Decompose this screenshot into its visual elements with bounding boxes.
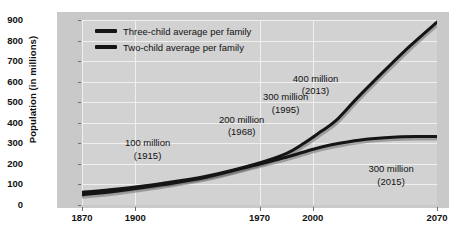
x-tick-label: 2070 (407, 212, 465, 223)
annotation-label: 400 million(2013) (293, 73, 338, 98)
chart-legend: Three-child average per family Two-child… (95, 24, 251, 56)
annotation-year: (2013) (293, 85, 338, 98)
x-tick-mark (135, 207, 136, 211)
legend-label-three-child: Three-child average per family (123, 26, 251, 37)
y-tick-label: 900 (0, 14, 23, 25)
y-tick-mark (78, 82, 81, 83)
population-projection-chart: 0100200300400500600700800900 18701900197… (0, 0, 465, 237)
y-tick-mark (78, 41, 81, 42)
x-tick-mark (260, 207, 261, 211)
annotation-year: (1915) (125, 150, 170, 163)
annotation-year: (1995) (263, 104, 308, 117)
annotation-value: 300 million (368, 163, 413, 176)
legend-swatch-two-child (95, 45, 117, 49)
x-tick-mark (313, 207, 314, 211)
y-tick-mark (78, 102, 81, 103)
y-tick-label: 0 (0, 199, 23, 210)
x-tick-label: 1970 (230, 212, 290, 223)
y-tick-label: 200 (0, 158, 23, 169)
y-tick-mark (78, 143, 81, 144)
y-tick-mark (78, 61, 81, 62)
legend-swatch-three-child (95, 29, 117, 33)
y-tick-mark (78, 20, 81, 21)
x-tick-mark (82, 207, 83, 211)
y-axis-label: Population (in millions) (27, 20, 38, 160)
x-tick-label: 2000 (283, 212, 343, 223)
x-tick-mark (437, 207, 438, 211)
y-tick-label: 100 (0, 178, 23, 189)
annotation-value: 200 million (219, 114, 264, 127)
y-tick-label: 300 (0, 137, 23, 148)
annotation-year: (2015) (368, 176, 413, 189)
y-tick-label: 400 (0, 117, 23, 128)
y-tick-mark (78, 164, 81, 165)
y-tick-mark (78, 184, 81, 185)
annotation-value: 400 million (293, 73, 338, 86)
annotation-label: 100 million(1915) (125, 137, 170, 162)
annotation-label: 200 million(1968) (219, 114, 264, 139)
x-tick-label: 1900 (105, 212, 165, 223)
y-tick-label: 600 (0, 76, 23, 87)
y-tick-label: 800 (0, 35, 23, 46)
annotation-value: 100 million (125, 137, 170, 150)
annotation-label: 300 million(2015) (368, 163, 413, 188)
y-tick-mark (78, 123, 81, 124)
legend-item: Three-child average per family (95, 24, 251, 38)
x-tick-label: 1870 (52, 212, 112, 223)
legend-label-two-child: Two-child average per family (123, 42, 244, 53)
y-tick-mark (78, 205, 81, 206)
annotation-year: (1968) (219, 126, 264, 139)
y-tick-label: 700 (0, 55, 23, 66)
y-tick-label: 500 (0, 96, 23, 107)
legend-item: Two-child average per family (95, 40, 251, 54)
